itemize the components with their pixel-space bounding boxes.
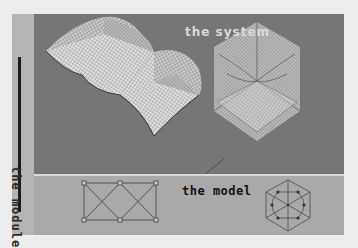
model-label: the model	[182, 184, 252, 198]
module-strip: the module	[12, 14, 34, 235]
figure-frame: the module	[12, 14, 344, 235]
system-panel: the system	[34, 14, 344, 174]
hex-model-diagram	[266, 180, 310, 231]
module-label: the module	[9, 166, 23, 248]
system-label: the system	[185, 25, 270, 39]
vault-surface	[46, 17, 202, 136]
hex-surface	[214, 22, 300, 141]
pointer-line	[205, 159, 224, 174]
model-panel: the model	[34, 176, 344, 235]
rect-model-diagram	[82, 181, 158, 222]
